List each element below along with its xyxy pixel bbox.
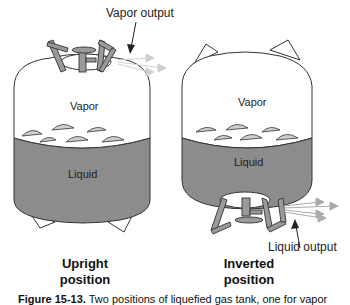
upright-tank <box>14 22 166 232</box>
inverted-tank <box>182 40 338 248</box>
figure-caption: Figure 15-13. Two positions of liquefied… <box>18 293 327 305</box>
inverted-position-caption: Inverted position <box>214 256 284 288</box>
inverted-caption-line1: Inverted <box>214 256 284 272</box>
upright-position-caption: Upright position <box>50 256 120 288</box>
inverted-liquid-label: Liquid <box>234 156 263 168</box>
upright-caption-line1: Upright <box>50 256 120 272</box>
upright-caption-line2: position <box>50 272 120 288</box>
inverted-caption-line2: position <box>214 272 284 288</box>
inverted-liquid-output-callout: Liquid output <box>268 240 337 254</box>
figure-caption-text: Two positions of liquefied gas tank, one… <box>89 293 327 305</box>
figure-number: Figure 15-13. <box>18 293 86 305</box>
upright-vapor-output-callout: Vapor output <box>106 6 174 20</box>
inverted-vapor-label: Vapor <box>238 96 267 108</box>
upright-liquid-label: Liquid <box>68 168 97 180</box>
upright-vapor-label: Vapor <box>70 100 99 112</box>
